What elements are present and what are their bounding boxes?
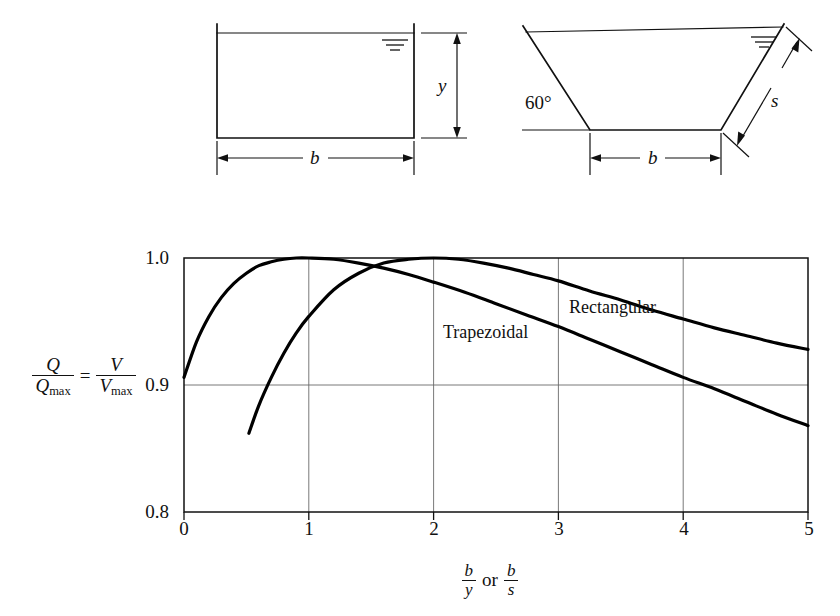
x-tick-label-1: 1: [295, 518, 323, 540]
curve-label-rectangular: Rectangular: [569, 297, 656, 318]
y-axis-q-denominator: Qmax: [32, 376, 73, 398]
curve-rectangular: [249, 258, 808, 433]
x-axis-fraction-by: b y: [462, 562, 477, 599]
y-axis-fraction-v: V Vmax: [96, 355, 135, 398]
x-axis-label: b y or b s: [420, 562, 560, 599]
side-dim-line-lower: [740, 88, 771, 141]
trapezoidal-side-letter: s: [771, 90, 778, 112]
trapezoidal-channel-outline: [523, 24, 784, 130]
y-axis-q-numerator: Q: [32, 355, 73, 376]
x-tick-label-3: 3: [545, 518, 573, 540]
x-tick-label-4: 4: [670, 518, 698, 540]
y-axis-equals-sign: =: [80, 365, 91, 387]
x-tick-label-5: 5: [795, 518, 823, 540]
x-axis-b-numerator-1: b: [462, 562, 477, 581]
plot-curves: [184, 258, 808, 433]
side-ext-line-bottom: [723, 133, 749, 157]
x-axis-conjunction: or: [482, 569, 498, 591]
rectangular-channel-outline: [217, 24, 414, 138]
x-axis-y-denominator: y: [462, 581, 477, 599]
rectangular-width-letter: b: [310, 147, 320, 169]
y-axis-fraction-q: Q Qmax: [32, 355, 73, 398]
curve-label-trapezoidal: Trapezoidal: [443, 322, 528, 343]
plot-gridlines: [184, 258, 808, 512]
rectangular-channel-diagram: [217, 24, 414, 138]
rectangular-depth-letter: y: [438, 75, 446, 97]
x-tick-label-0: 0: [170, 518, 198, 540]
x-axis-fraction-bs: b s: [504, 562, 519, 599]
y-axis-v-denominator: Vmax: [96, 376, 135, 398]
trapezoidal-water-line: [526, 27, 783, 32]
rectangular-water-surface-icon: [382, 40, 408, 50]
x-axis-s-denominator: s: [504, 581, 519, 599]
trapezoidal-width-letter: b: [648, 147, 658, 169]
trapezoidal-angle-label: 60°: [525, 92, 552, 114]
y-axis-v-numerator: V: [96, 355, 135, 376]
y-tick-label-1.0: 1.0: [136, 247, 178, 269]
y-axis-label: Q Qmax = V Vmax: [14, 355, 154, 398]
trapezoidal-channel-diagram: [523, 24, 784, 130]
x-axis-b-numerator-2: b: [504, 562, 519, 581]
x-axis-ticks: [184, 512, 808, 520]
x-tick-label-2: 2: [420, 518, 448, 540]
figure-canvas: 1.0 0.9 0.8 0 1 2 3 4 5 Q Qmax = V Vmax …: [0, 0, 840, 616]
